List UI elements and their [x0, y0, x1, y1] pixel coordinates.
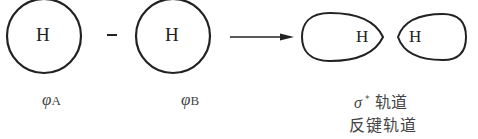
atom-a-label: H: [36, 24, 50, 46]
arrow-head: [280, 34, 294, 41]
phi-b-subscript: B: [190, 93, 199, 108]
orbital-text: 轨道: [375, 93, 407, 112]
lobe-right-label: H: [409, 27, 421, 47]
phi-symbol: φ: [181, 90, 190, 109]
sigma-star-label: σ*轨道: [354, 89, 407, 113]
phi-symbol: φ: [42, 90, 51, 109]
lobe-left-label: H: [356, 27, 368, 47]
sigma-symbol: σ: [354, 94, 362, 111]
atom-b-label: H: [165, 24, 179, 46]
antibonding-label: 反键轨道: [349, 112, 417, 136]
star-superscript: *: [365, 94, 370, 104]
phi-a-subscript: A: [51, 93, 60, 108]
phi-a-label: φA: [42, 90, 61, 110]
lobe-left: [302, 13, 383, 61]
phi-b-label: φB: [181, 90, 199, 110]
